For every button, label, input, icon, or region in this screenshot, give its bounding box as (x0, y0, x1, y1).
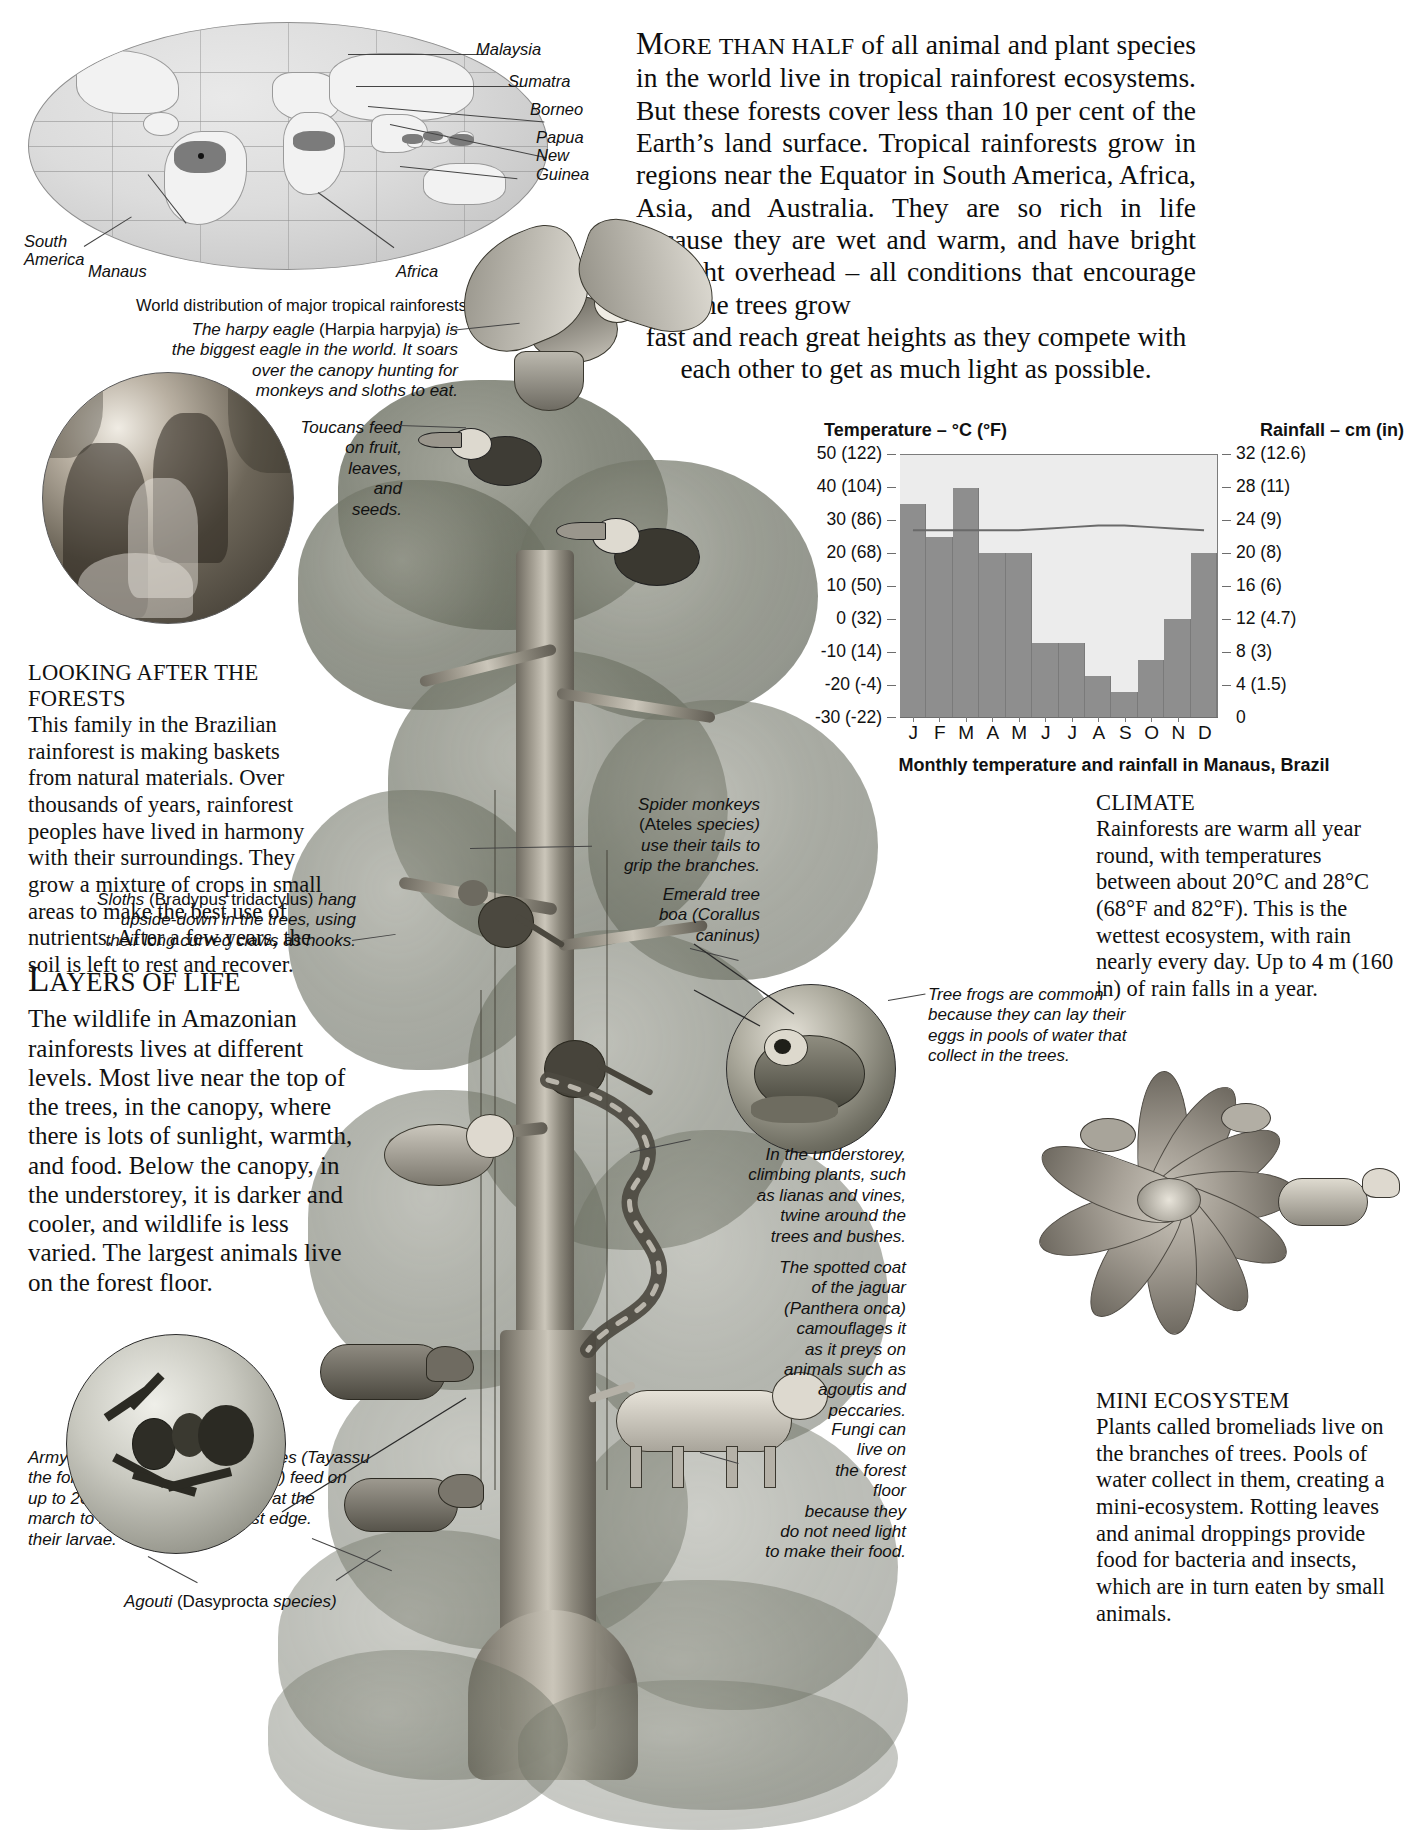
toucans-line2: on fruit, (282, 438, 402, 458)
spider-line2b: species) (697, 815, 760, 834)
toucan-lower-figure (568, 500, 728, 600)
jaguar-line5: as it preys on (690, 1340, 906, 1360)
month-j2: J (1033, 722, 1060, 744)
callout-jaguar: The spotted coat of the jaguar (Panthera… (690, 1258, 906, 1421)
callout-toucans: Toucans feed on fruit, leaves, and seeds… (282, 418, 402, 520)
left-tick-8: -30 (-22) (732, 707, 882, 728)
chart-caption: Monthly temperature and rainfall in Mana… (824, 755, 1404, 776)
section-climate: CLIMATE Rainforests are warm all year ro… (1096, 790, 1396, 1003)
treefrog-line2: because they can lay their (928, 1005, 1188, 1025)
right-tick-6: 8 (3) (1236, 641, 1272, 662)
left-tick-6: -10 (14) (732, 641, 882, 662)
jaguar-line6: animals such as (690, 1360, 906, 1380)
chart-plot-area (900, 454, 1218, 717)
right-tick-5: 12 (4.7) (1236, 608, 1296, 629)
month-n: N (1165, 722, 1192, 744)
right-tick-4: 16 (6) (1236, 575, 1282, 596)
right-tick-2: 24 (9) (1236, 509, 1282, 530)
section-layers-of-life: LAYERS OF LIFE The wildlife in Amazonian… (28, 962, 358, 1297)
harpy-line1a: The harpy eagle (192, 320, 315, 339)
map-label-manaus: Manaus (88, 262, 147, 280)
month-j1: J (900, 722, 927, 744)
right-tick-7: 4 (1.5) (1236, 674, 1287, 695)
looking-body: This family in the Brazilian rainforest … (28, 712, 328, 979)
fungi-line3: the forest (740, 1461, 906, 1481)
chart-left-axis-title: Temperature – °C (°F) (824, 420, 1007, 441)
understorey-line1: In the understorey, (690, 1145, 906, 1165)
frog-inset-leader (690, 940, 810, 1030)
mini-body: Plants called bromeliads live on the bra… (1096, 1414, 1396, 1627)
climate-chart: Temperature – °C (°F) Rainfall – cm (in)… (824, 420, 1404, 780)
jaguar-line7: agoutis and (690, 1380, 906, 1400)
understorey-line5: trees and bushes. (690, 1227, 906, 1247)
harpy-eagle-figure (418, 225, 728, 435)
right-tick-0: 32 (12.6) (1236, 443, 1306, 464)
fungi-line4: floor (740, 1481, 906, 1501)
temperature-line (900, 455, 1217, 717)
rainforest-family-photo (42, 372, 294, 624)
sloth-figure (354, 1090, 524, 1220)
layers-body: The wildlife in Amazonian rainforests li… (28, 1004, 358, 1297)
left-tick-4: 10 (50) (732, 575, 882, 596)
harpy-line3: over the canopy hunting for (148, 361, 458, 381)
intro-lead-initial: M (636, 26, 664, 61)
boa-line2: boa (Corallus (620, 905, 760, 925)
bromeliad-frog-1 (1080, 1118, 1136, 1152)
spider-line1: Spider monkeys (600, 795, 760, 815)
mini-heading: MINI ECOSYSTEM (1096, 1388, 1396, 1414)
jaguar-line1: The spotted coat (690, 1258, 906, 1278)
jaguar-line4: camouflages it (690, 1319, 906, 1339)
toucan-upper-figure (428, 410, 568, 500)
map-label-malaysia: Malaysia (476, 40, 541, 58)
understorey-line4: twine around the (690, 1206, 906, 1226)
callout-spider-monkeys: Spider monkeys (Ateles species) use thei… (600, 795, 760, 877)
month-j3: J (1059, 722, 1086, 744)
spider-monkey-upper (448, 870, 568, 980)
left-tick-0: 50 (122) (732, 443, 882, 464)
month-a1: A (980, 722, 1007, 744)
month-s: S (1112, 722, 1139, 744)
harpy-line4: monkeys and sloths to eat. (148, 381, 458, 401)
fungi-line2: live on (740, 1440, 906, 1460)
month-m2: M (1006, 722, 1033, 744)
bromeliad-illustration (930, 1078, 1400, 1328)
looking-heading: LOOKING AFTER THE FORESTS (28, 660, 328, 712)
layers-heading-cap: L (28, 960, 49, 999)
callout-fungi: Fungi can live on the forest floor becau… (740, 1420, 906, 1563)
spider-line2a: (Ateles (639, 815, 697, 834)
toucans-line4: and (282, 479, 402, 499)
chart-right-axis-title: Rainfall – cm (in) (1260, 420, 1404, 441)
intro-lead-thanhalf: THAN HALF (719, 33, 855, 59)
harpy-line2: the biggest eagle in the world. It soars (148, 340, 458, 360)
fungi-line6: do not need light (740, 1522, 906, 1542)
right-tick-1: 28 (11) (1236, 476, 1290, 497)
chart-x-axis (900, 717, 1218, 718)
left-tick-1: 40 (104) (732, 476, 882, 497)
toucans-line5: seeds. (282, 500, 402, 520)
understorey-line2: climbing plants, such (690, 1165, 906, 1185)
map-label-sumatra: Sumatra (508, 72, 570, 90)
agouti-line1b: (Dasyprocta (172, 1592, 273, 1611)
left-tick-3: 20 (68) (732, 542, 882, 563)
section-mini-ecosystem: MINI ECOSYSTEM Plants called bromeliads … (1096, 1388, 1396, 1627)
treefrog-line4: collect in the trees. (928, 1046, 1188, 1066)
army-ant-inset (66, 1334, 286, 1554)
callout-agouti: Agouti (Dasyprocta species) (124, 1592, 384, 1612)
left-tick-2: 30 (86) (732, 509, 882, 530)
month-f: F (927, 722, 954, 744)
right-tick-3: 20 (8) (1236, 542, 1282, 563)
section-looking-after-forests: LOOKING AFTER THE FORESTS This family in… (28, 660, 328, 979)
month-o: O (1139, 722, 1166, 744)
climate-heading: CLIMATE (1096, 790, 1396, 816)
spider-line3: use their tails to (600, 836, 760, 856)
jaguar-line8: peccaries. (690, 1401, 906, 1421)
layers-heading-rest: AYERS OF LIFE (49, 967, 240, 997)
map-label-papua-new-guinea: Papua New Guinea (536, 128, 589, 183)
intro-lead-more: ORE (664, 33, 712, 59)
left-tick-7: -20 (-4) (732, 674, 882, 695)
encyclopedia-page: Malaysia Sumatra Borneo Papua New Guinea… (0, 0, 1417, 1830)
harpy-line1b: (Harpia harpyja) (314, 320, 445, 339)
chart-left-axis: 50 (122) 40 (104) 30 (86) 20 (68) 10 (50… (824, 454, 896, 717)
month-m1: M (953, 722, 980, 744)
spider-line4: grip the branches. (600, 856, 760, 876)
